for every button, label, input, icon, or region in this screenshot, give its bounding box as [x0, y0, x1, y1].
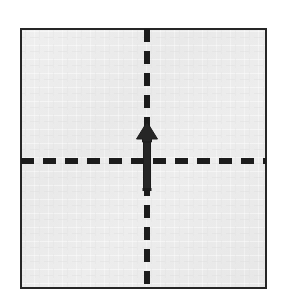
- arrow-tail-cap: [143, 188, 152, 191]
- diagram-canvas: [0, 0, 282, 297]
- origami-fold-diagram: Origami fold step: valley fold bottom ed…: [0, 0, 282, 297]
- arrow-shaft: [144, 135, 151, 190]
